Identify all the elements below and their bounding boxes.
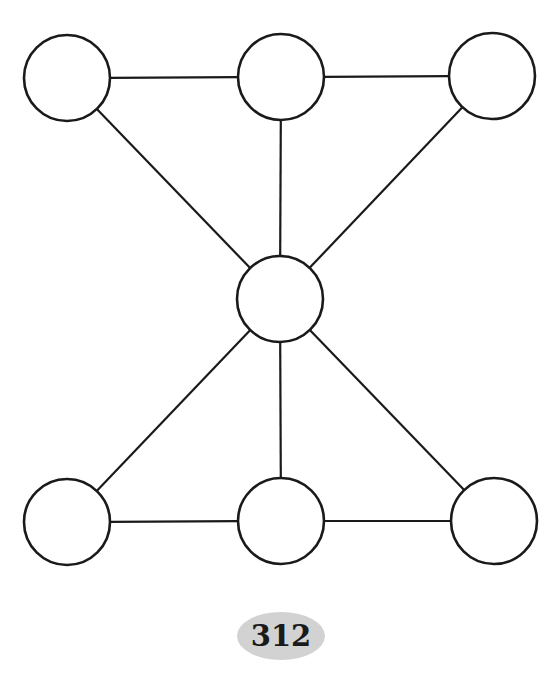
node-bottom-left (24, 479, 110, 565)
page-number: 312 (251, 619, 312, 653)
edge-top-right-center (310, 107, 463, 268)
edge-top-left-center (97, 109, 250, 268)
node-bottom-middle (238, 478, 324, 564)
node-top-middle (238, 34, 324, 120)
edge-center-bottom-left (97, 330, 251, 491)
graph-diagram (0, 0, 559, 673)
node-top-right (449, 33, 535, 119)
edge-top-middle-center (280, 120, 281, 256)
edge-top-left-top-middle (110, 77, 238, 78)
edge-center-bottom-middle (280, 342, 281, 478)
node-top-left (24, 35, 110, 121)
edge-top-middle-top-right (324, 76, 449, 77)
edge-bottom-left-bottom-middle (110, 521, 238, 522)
node-center (237, 256, 323, 342)
edge-center-bottom-right (310, 330, 464, 490)
page-number-badge: 312 (237, 612, 325, 660)
node-bottom-right (451, 478, 537, 564)
